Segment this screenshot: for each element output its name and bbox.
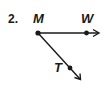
point-t [68,66,73,71]
ray-mw [38,30,99,37]
angle-figure [0,0,106,96]
ray-mt [38,33,81,80]
point-m [35,30,40,35]
point-w [84,31,89,36]
